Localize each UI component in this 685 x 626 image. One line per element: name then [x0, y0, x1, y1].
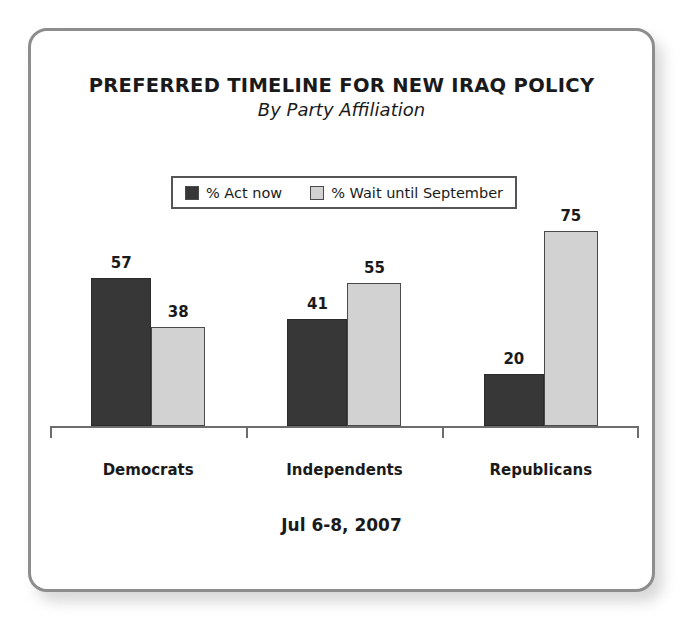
bar-republicans-wait: 75 [544, 231, 598, 426]
axis-tick-end [637, 426, 639, 438]
bar-value-democrats-wait: 38 [168, 303, 189, 321]
legend-item-wait-until-september: % Wait until September [310, 185, 503, 201]
bar-independents-wait: 55 [347, 283, 401, 426]
axis-tick-start [50, 426, 52, 438]
chart-card: PREFERRED TIMELINE FOR NEW IRAQ POLICY B… [28, 28, 655, 592]
axis-tick-separator-2 [442, 426, 444, 438]
bar-independents-act-now: 41 [287, 319, 347, 426]
bar-republicans-act-now: 20 [484, 374, 544, 426]
plot-area: 57 38 41 55 20 [50, 206, 639, 453]
bar-democrats-act-now: 57 [91, 278, 151, 426]
page-subtitle: By Party Affiliation [31, 99, 652, 120]
bar-group-republicans: 20 75 [443, 204, 639, 426]
bar-group-democrats: 57 38 [50, 204, 246, 426]
legend-label-act-now: % Act now [206, 185, 282, 201]
bar-value-republicans-wait: 75 [560, 207, 581, 225]
category-labels: Democrats Independents Republicans [50, 461, 639, 479]
axis-tick-separator-1 [246, 426, 248, 438]
bar-democrats-wait: 38 [151, 327, 205, 426]
page-title: PREFERRED TIMELINE FOR NEW IRAQ POLICY [31, 74, 652, 97]
dark-swatch-icon [185, 186, 199, 200]
chart-footer-date: Jul 6-8, 2007 [31, 515, 652, 535]
chart-canvas: PREFERRED TIMELINE FOR NEW IRAQ POLICY B… [0, 0, 685, 626]
bar-value-independents-wait: 55 [364, 259, 385, 277]
bar-value-democrats-act-now: 57 [111, 254, 132, 272]
legend-item-act-now: % Act now [185, 185, 282, 201]
light-swatch-icon [310, 186, 324, 200]
category-label-independents: Independents [246, 461, 442, 479]
x-axis-line [50, 426, 639, 428]
bar-group-independents: 41 55 [246, 204, 442, 426]
bar-value-republicans-act-now: 20 [503, 350, 524, 368]
bar-groups: 57 38 41 55 20 [50, 204, 639, 426]
category-label-republicans: Republicans [443, 461, 639, 479]
legend-label-wait-until-september: % Wait until September [331, 185, 503, 201]
category-label-democrats: Democrats [50, 461, 246, 479]
bar-value-independents-act-now: 41 [307, 295, 328, 313]
